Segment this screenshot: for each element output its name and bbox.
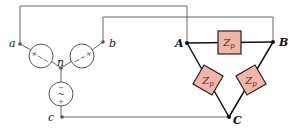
node-b-dot	[101, 40, 105, 44]
label-b: b	[109, 37, 116, 50]
node-B-dot	[271, 40, 275, 44]
label-C: C	[233, 114, 242, 127]
label-a: a	[9, 37, 16, 50]
node-A-dot	[185, 41, 189, 45]
source-an: +~−	[29, 44, 53, 68]
delta-load: Zp Zp Zp A B C	[174, 31, 288, 127]
wye-source: +~− −~+ − ~ + a b n c	[9, 37, 116, 124]
source-bn: −~+	[70, 44, 94, 68]
impedance-BC: Zp	[236, 65, 266, 95]
node-c-dot	[60, 115, 64, 119]
svg-text:+: +	[58, 98, 64, 106]
impedance-AC: Zp	[193, 65, 223, 95]
label-c: c	[48, 111, 54, 124]
wire-b-to-B	[103, 17, 273, 42]
three-phase-circuit-diagram: +~− −~+ − ~ + a b n c Zp Zp	[0, 0, 296, 130]
source-cn: − ~ +	[49, 82, 73, 106]
node-a-dot	[18, 42, 22, 46]
label-A: A	[174, 37, 184, 50]
label-n: n	[57, 56, 64, 69]
node-C-dot	[227, 115, 231, 119]
impedance-AB: Zp	[218, 31, 241, 54]
label-B: B	[278, 36, 288, 49]
